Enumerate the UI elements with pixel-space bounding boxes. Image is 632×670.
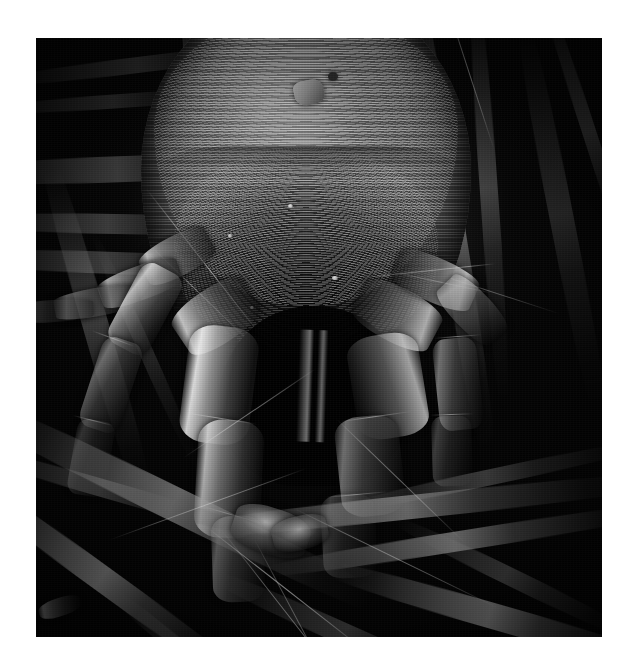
hypostome-ridges <box>296 329 334 442</box>
cuticle-pore <box>332 276 338 280</box>
screenshot-root: Black and white scanning electron microg… <box>0 0 632 670</box>
transverse-sulcus <box>167 146 451 180</box>
sem-micrograph-image: Black and white scanning electron microg… <box>36 38 602 637</box>
cuticle-pore <box>288 204 293 208</box>
cuticle-pore <box>228 234 232 238</box>
